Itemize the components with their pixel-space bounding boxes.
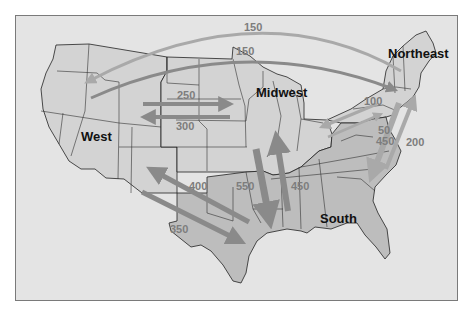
flow-label-south-to-west: 400 xyxy=(189,181,207,192)
migration-map: West Midwest Northeast South 150 150 250… xyxy=(15,15,458,301)
flow-label-ne-to-south: 450 xyxy=(376,136,394,147)
region-label-midwest: Midwest xyxy=(256,86,307,99)
flow-label-south-to-ne: 200 xyxy=(406,137,424,148)
flow-label-midwest-to-west: 300 xyxy=(176,121,194,132)
flow-label-midwest-to-south: 550 xyxy=(236,181,254,192)
flow-label-west-to-ne: 150 xyxy=(236,46,254,57)
flow-label-west-to-midwest: 250 xyxy=(177,90,195,101)
flow-label-south-to-midwest: 450 xyxy=(291,181,309,192)
flow-label-west-to-south: 350 xyxy=(170,224,188,235)
region-label-northeast: Northeast xyxy=(388,47,449,60)
region-label-west: West xyxy=(81,130,112,143)
flow-label-ne-to-midwest: 100 xyxy=(364,96,382,107)
region-label-south: South xyxy=(320,212,357,225)
flow-label-ne-to-west: 150 xyxy=(244,22,262,33)
